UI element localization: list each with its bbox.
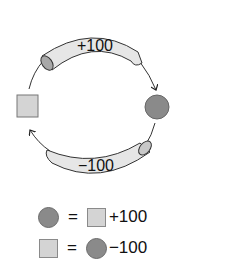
square-node [17,95,38,117]
bottom-tube: −100 [46,139,154,174]
legend-square-icon [87,208,106,227]
top-tube: +100 [38,37,142,72]
legend-square-icon [39,239,58,258]
legend-value-plus: +100 [109,205,147,229]
legend-row-1: = +100 [38,205,147,229]
arrow-to-square [30,130,50,151]
bottom-tube-label: −100 [78,157,114,174]
equals-sign: = [68,205,78,229]
arrow-to-circle [140,62,156,90]
circle-node [145,95,169,119]
legend-row-2: = −100 [39,236,147,260]
legend-value-minus: −100 [109,236,147,260]
equals-sign: = [67,236,77,260]
legend-circle-icon [86,238,107,259]
legend-circle-icon [38,207,59,228]
top-tube-label: +100 [77,37,113,54]
